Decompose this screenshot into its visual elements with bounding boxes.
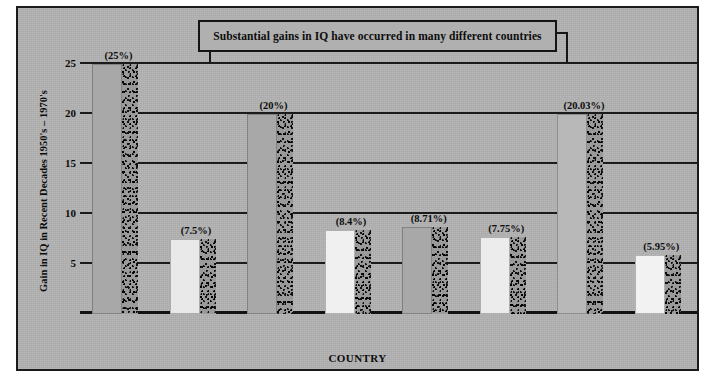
y-axis-tick-label: 25: [65, 57, 76, 69]
bar[interactable]: [635, 255, 665, 315]
bar-value-label: (25%): [104, 50, 132, 61]
bar-value-label: (7.75%): [488, 223, 524, 234]
chart-frame: Substantial gains in IQ have occurred in…: [16, 6, 699, 371]
bar[interactable]: [170, 239, 200, 314]
x-axis-title: COUNTRY: [18, 352, 697, 364]
y-axis-tick-label: 15: [65, 157, 76, 169]
y-axis-tick-label: 20: [65, 107, 76, 119]
x-axis-category-label: Netherlands: [235, 368, 313, 371]
plot-area: 510152025(25%)France(7.5%)Belgium(20%)Ne…: [80, 64, 699, 314]
bar-group: (5.95%): [635, 64, 685, 314]
bar-shadow: [432, 227, 448, 314]
bar-shadow: [200, 239, 216, 314]
bar[interactable]: [247, 114, 277, 314]
bar-group: (20.03%): [557, 64, 607, 314]
bar-value-label: (7.5%): [181, 225, 212, 236]
bar-value-label: (5.95%): [643, 241, 679, 252]
bar-shadow: [587, 114, 603, 314]
bar-shadow: [122, 64, 138, 314]
bar[interactable]: [92, 64, 122, 314]
x-axis-category-label: Australia: [313, 368, 391, 371]
bar-value-label: (20%): [259, 100, 287, 111]
y-axis-title: Gain in IQ in Recent Decades 1950's – 19…: [38, 66, 52, 316]
bar-shadow: [355, 230, 371, 314]
bar-group: (7.5%): [170, 64, 220, 314]
chart-title: Substantial gains in IQ have occurred in…: [213, 30, 541, 42]
y-axis-tick-label: 5: [71, 257, 77, 269]
bar[interactable]: [325, 230, 355, 314]
bar-group: (7.75%): [480, 64, 530, 314]
y-axis-tick-label: 10: [65, 207, 76, 219]
x-axis-category-label: Canada: [390, 368, 468, 371]
bar-shadow: [665, 255, 681, 315]
bar[interactable]: [557, 114, 587, 314]
bar-shadow: [510, 237, 526, 315]
x-axis-category-label: U.S.: [623, 368, 700, 371]
bar-value-label: (8.4%): [336, 216, 367, 227]
x-axis-category-label: Belgium: [158, 368, 236, 371]
bar-group: (20%): [247, 64, 297, 314]
x-axis-category-label: Japan: [545, 368, 623, 371]
bar-group: (25%): [92, 64, 142, 314]
chart-title-box: Substantial gains in IQ have occurred in…: [198, 20, 557, 52]
bar-group: (8.71%): [402, 64, 452, 314]
bar-group: (8.4%): [325, 64, 375, 314]
x-axis-category-label: France: [80, 368, 158, 371]
bar[interactable]: [402, 227, 432, 314]
bar-value-label: (8.71%): [411, 213, 447, 224]
chart-figure: Substantial gains in IQ have occurred in…: [0, 0, 715, 382]
x-axis-category-label: GreatBritain: [468, 368, 546, 371]
bar-value-label: (20.03%): [563, 100, 604, 111]
bar[interactable]: [480, 237, 510, 315]
bar-shadow: [277, 114, 293, 314]
